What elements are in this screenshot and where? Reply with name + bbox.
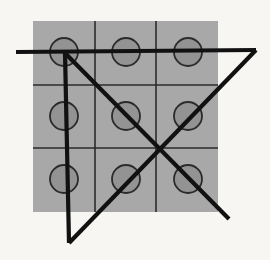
figure-canvas [0, 0, 270, 260]
circle-r2c3 [174, 102, 202, 130]
circle-r3c1 [50, 165, 78, 193]
circle-r2c1 [50, 102, 78, 130]
horizontal-top-line [16, 50, 256, 52]
circle-r3c2 [112, 165, 140, 193]
figure-svg [0, 0, 270, 260]
